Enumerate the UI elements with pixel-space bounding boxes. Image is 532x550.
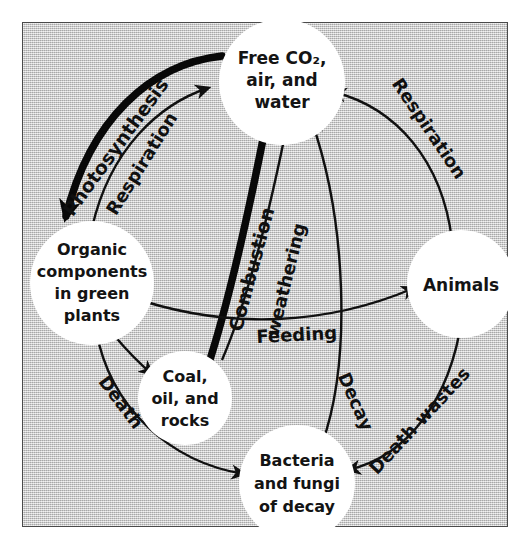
- label-death-wastes: Death wastes: [365, 363, 474, 478]
- node-organic-components[interactable]: Organic components in green plants: [30, 221, 154, 345]
- node-label-animals: Animals: [423, 275, 499, 295]
- carbon-cycle-diagram: Photosynthesis Respiration Respiration C…: [0, 0, 532, 550]
- node-label-bacteria-line3: of decay: [259, 497, 336, 516]
- node-animals[interactable]: Animals: [407, 230, 515, 338]
- node-coal-oil-rocks[interactable]: Coal, oil, and rocks: [138, 351, 232, 445]
- node-label-fossil-line1: Coal,: [162, 367, 207, 386]
- node-bacteria-fungi[interactable]: Bacteria and fungi of decay: [239, 425, 355, 541]
- node-label-fossil-line2: oil, and: [151, 389, 218, 408]
- node-label-bacteria-line2: and fungi: [254, 474, 340, 493]
- figure-canvas: Photosynthesis Respiration Respiration C…: [0, 0, 532, 550]
- label-feeding: Feeding: [256, 322, 338, 347]
- node-label-free-co2-line2: air, and: [246, 70, 317, 90]
- edge-decay: [312, 122, 341, 444]
- node-label-free-co2-line3: water: [254, 92, 310, 112]
- node-label-free-co2-line1: Free CO₂,: [238, 48, 327, 68]
- node-label-plants-line1: Organic: [57, 240, 127, 259]
- node-free-co2[interactable]: Free CO₂, air, and water: [219, 19, 345, 145]
- node-label-plants-line4: plants: [64, 306, 120, 325]
- node-label-plants-line2: components: [37, 262, 147, 281]
- node-label-plants-line3: in green: [55, 284, 130, 303]
- edge-burial: [113, 334, 152, 374]
- label-decay: Decay: [334, 369, 378, 434]
- edge-respiration-animals: [334, 92, 452, 240]
- node-label-fossil-line3: rocks: [161, 411, 210, 430]
- edge-photosynthesis: [0, 0, 222, 216]
- node-label-bacteria-line1: Bacteria: [259, 451, 334, 470]
